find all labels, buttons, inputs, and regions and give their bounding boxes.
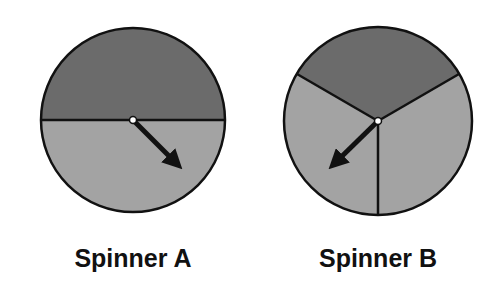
- spinner-b-label: Spinner B: [278, 244, 478, 273]
- spinner-a-top-half: [41, 28, 225, 120]
- spinner-a-bottom-half: [41, 120, 225, 212]
- spinner-a-label: Spinner A: [33, 244, 233, 273]
- spinner-a-pivot: [130, 117, 137, 124]
- spinner-b: [284, 27, 472, 215]
- spinner-a: [41, 28, 225, 212]
- spinner-b-pivot: [375, 118, 382, 125]
